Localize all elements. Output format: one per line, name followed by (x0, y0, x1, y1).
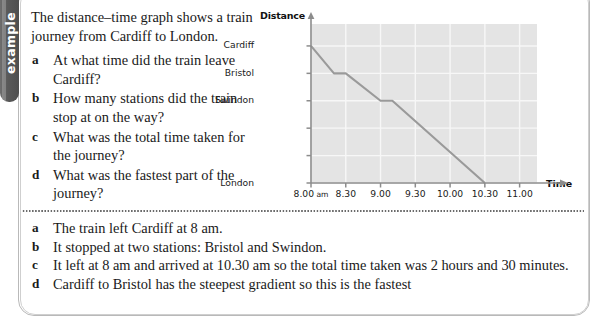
example-tab-label: example (2, 12, 17, 74)
x-tick-label: 8.00 am (294, 188, 329, 199)
x-tick-label: 10.30 (472, 188, 498, 199)
x-tick-label: 8.30 (336, 188, 356, 199)
answer-marker-b: b (32, 238, 39, 257)
y-tick-label: Swindon (215, 94, 254, 105)
answer-marker-c: c (32, 256, 38, 275)
answer-text-d: Cardiff to Bristol has the steepest grad… (53, 276, 411, 292)
answer-text-a: The train left Cardiff at 8 am. (53, 220, 223, 236)
answer-marker-a: a (32, 219, 39, 238)
question-block: The distance–time graph shows a train jo… (31, 8, 263, 204)
question-text-b: How many stations did the train stop at … (53, 90, 237, 125)
answer-marker-d: d (32, 275, 39, 294)
question-text-c: What was the total time taken for the jo… (53, 129, 245, 164)
example-tab: example (0, 0, 19, 102)
y-tick-label: London (220, 177, 254, 188)
answer-block: a The train left Cardiff at 8 am. b It s… (31, 219, 571, 294)
x-tick-label: 9.00 (370, 188, 390, 199)
question-marker-c: c (32, 128, 38, 147)
question-marker-b: b (32, 89, 39, 108)
question-marker-d: d (32, 166, 39, 185)
answer-item-c: c It left at 8 am and arrived at 10.30 a… (31, 256, 571, 275)
question-text-d: What was the fastest part of the journey… (53, 167, 234, 202)
x-tick-label: 9.30 (405, 188, 425, 199)
question-marker-a: a (32, 51, 39, 70)
answer-item-d: d Cardiff to Bristol has the steepest gr… (31, 275, 571, 294)
y-tick-label: Cardiff (224, 39, 254, 50)
chart-svg (258, 6, 588, 201)
question-text-a: At what time did the train leave Cardiff… (53, 52, 235, 87)
x-tick-label: 10.00 (437, 188, 463, 199)
answer-item-a: a The train left Cardiff at 8 am. (31, 219, 571, 238)
answer-list: a The train left Cardiff at 8 am. b It s… (31, 219, 571, 294)
y-tick-label: Bristol (225, 67, 254, 78)
question-item-c: c What was the total time taken for the … (31, 128, 263, 165)
answer-item-b: b It stopped at two stations: Bristol an… (31, 238, 571, 257)
distance-time-chart: Distance Time CardiffBristolSwindonLondo… (258, 6, 588, 201)
answer-text-b: It stopped at two stations: Bristol and … (53, 239, 326, 255)
answer-text-c: It left at 8 am and arrived at 10.30 am … (53, 257, 569, 273)
section-divider (22, 210, 584, 212)
x-tick-label: 11.00 (506, 188, 532, 199)
